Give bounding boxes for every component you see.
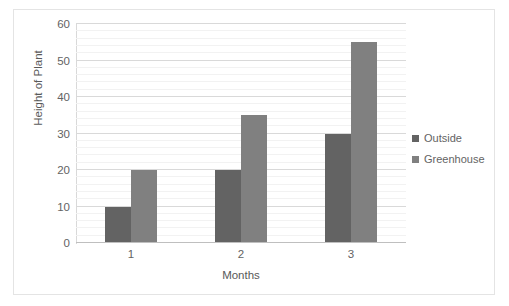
legend-swatch-icon: [412, 135, 419, 142]
bar-group: [186, 24, 296, 243]
x-axis-title: Months: [76, 269, 406, 281]
chart-legend: OutsideGreenhouse: [412, 132, 494, 174]
chart-container: 0102030405060 Height of Plant 123 Months…: [13, 9, 495, 295]
bar-group: [296, 24, 406, 243]
x-axis-tick-label: 2: [238, 248, 244, 260]
legend-swatch-icon: [412, 156, 419, 163]
legend-item-label: Outside: [424, 132, 462, 144]
bar-greenhouse[interactable]: [351, 42, 377, 243]
y-axis-tick-label: 10: [57, 201, 70, 213]
bar-greenhouse[interactable]: [131, 170, 157, 243]
x-axis-tick-label: 3: [348, 248, 354, 260]
y-axis-title: Height of Plant: [32, 18, 44, 158]
y-axis-tick-label: 40: [57, 91, 70, 103]
x-axis-tick-label: 1: [128, 248, 134, 260]
y-axis-tick-label: 30: [57, 128, 70, 140]
bar-outside[interactable]: [325, 134, 351, 244]
bar-outside[interactable]: [105, 207, 131, 244]
bar-group: [76, 24, 186, 243]
legend-item[interactable]: Outside: [412, 132, 494, 144]
x-axis-tick-labels: 123: [76, 248, 406, 268]
y-axis-tick-label: 60: [57, 18, 70, 30]
y-axis-tick-label: 0: [64, 237, 70, 249]
plot-area: [76, 24, 406, 243]
legend-item-label: Greenhouse: [424, 153, 485, 165]
category-axis-line: [76, 242, 406, 243]
bar-outside[interactable]: [215, 170, 241, 243]
bar-greenhouse[interactable]: [241, 115, 267, 243]
y-axis-tick-label: 50: [57, 55, 70, 67]
y-axis-tick-label: 20: [57, 164, 70, 176]
legend-item[interactable]: Greenhouse: [412, 153, 494, 165]
